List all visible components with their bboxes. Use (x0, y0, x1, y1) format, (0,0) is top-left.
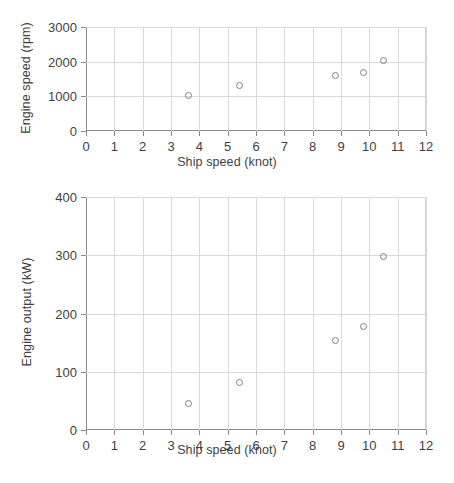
x-axis-title-ship-speed: Ship speed (knot) (0, 155, 454, 169)
x-axis-tick (86, 430, 87, 435)
gridline-vertical (284, 27, 285, 131)
gridline-vertical (114, 27, 115, 131)
y-axis-tick-label: 2000 (48, 54, 77, 69)
x-axis-tick (171, 430, 172, 435)
y-axis-tick (81, 255, 86, 256)
y-axis-line (86, 27, 87, 131)
x-axis-tick-label: 6 (252, 139, 259, 154)
x-axis-tick-label: 10 (362, 139, 376, 154)
x-axis-tick (143, 430, 144, 435)
x-axis-tick-label: 7 (281, 139, 288, 154)
x-axis-title-ship-speed: Ship speed (knot) (0, 443, 454, 457)
gridline-vertical (426, 27, 427, 131)
plot-area-engine-speed: 01000200030000123456789101112 (86, 27, 426, 131)
x-axis-tick (284, 430, 285, 435)
x-axis-tick (369, 131, 370, 136)
gridline-vertical (369, 27, 370, 131)
gridline-vertical (256, 27, 257, 131)
gridline-vertical (284, 197, 285, 430)
x-axis-tick (256, 430, 257, 435)
gridline-vertical (398, 197, 399, 430)
data-point-marker (332, 72, 339, 79)
data-point-marker (236, 82, 243, 89)
y-axis-title-engine-speed: Engine speed (rpm) (19, 13, 33, 143)
gridline-vertical (256, 197, 257, 430)
x-axis-tick (199, 131, 200, 136)
scatter-plot-figure: Engine speed (rpm) 010002000300001234567… (0, 0, 454, 483)
gridline-vertical (398, 27, 399, 131)
x-axis-tick-label: 4 (196, 139, 203, 154)
y-axis-tick-label: 300 (55, 248, 77, 263)
y-axis-tick-label: 100 (55, 364, 77, 379)
gridline-vertical (313, 27, 314, 131)
x-axis-tick (228, 131, 229, 136)
x-axis-tick-label: 12 (419, 139, 433, 154)
y-axis-tick-label: 0 (70, 423, 77, 438)
gridline-vertical (171, 27, 172, 131)
y-axis-tick (81, 197, 86, 198)
x-axis-tick (199, 430, 200, 435)
y-axis-tick (81, 314, 86, 315)
gridline-vertical (426, 197, 427, 430)
y-axis-tick (81, 27, 86, 28)
y-axis-tick-label: 1000 (48, 89, 77, 104)
y-axis-tick (81, 62, 86, 63)
gridline-vertical (228, 27, 229, 131)
x-axis-tick (228, 430, 229, 435)
x-axis-tick-label: 11 (391, 139, 405, 154)
gridline-vertical (341, 27, 342, 131)
x-axis-tick (114, 430, 115, 435)
x-axis-tick-label: 5 (224, 139, 231, 154)
y-axis-title-engine-output: Engine output (kW) (19, 189, 33, 434)
chart-engine-output: Engine output (kW) 010020030040001234567… (0, 180, 454, 483)
y-axis-tick-label: 400 (55, 190, 77, 205)
plot-area-engine-output: 01002003004000123456789101112 (86, 197, 426, 430)
x-axis-tick (143, 131, 144, 136)
data-point-marker (360, 323, 367, 330)
x-axis-tick (284, 131, 285, 136)
x-axis-tick (313, 131, 314, 136)
x-axis-tick (171, 131, 172, 136)
y-axis-tick-label: 200 (55, 306, 77, 321)
chart-engine-speed: Engine speed (rpm) 010002000300001234567… (0, 0, 454, 180)
data-point-marker (236, 379, 243, 386)
x-axis-tick (341, 430, 342, 435)
gridline-vertical (171, 197, 172, 430)
x-axis-tick-label: 9 (337, 139, 344, 154)
x-axis-tick (369, 430, 370, 435)
x-axis-tick (398, 131, 399, 136)
x-axis-tick (114, 131, 115, 136)
x-axis-tick (426, 131, 427, 136)
data-point-marker (185, 400, 192, 407)
gridline-vertical (199, 197, 200, 430)
gridline-vertical (143, 27, 144, 131)
x-axis-tick (398, 430, 399, 435)
y-axis-tick-label: 3000 (48, 20, 77, 35)
x-axis-tick-label: 2 (139, 139, 146, 154)
x-axis-tick-label: 3 (167, 139, 174, 154)
x-axis-tick-label: 8 (309, 139, 316, 154)
y-axis-tick-label: 0 (70, 124, 77, 139)
x-axis-tick (341, 131, 342, 136)
gridline-vertical (143, 197, 144, 430)
gridline-vertical (199, 27, 200, 131)
x-axis-tick (86, 131, 87, 136)
x-axis-tick (313, 430, 314, 435)
data-point-marker (360, 69, 367, 76)
gridline-vertical (114, 197, 115, 430)
gridline-vertical (228, 197, 229, 430)
y-axis-tick (81, 96, 86, 97)
x-axis-tick (256, 131, 257, 136)
gridline-vertical (341, 197, 342, 430)
x-axis-tick-label: 0 (82, 139, 89, 154)
x-axis-tick-label: 1 (111, 139, 118, 154)
y-axis-tick (81, 372, 86, 373)
gridline-vertical (313, 197, 314, 430)
x-axis-tick (426, 430, 427, 435)
gridline-vertical (369, 197, 370, 430)
